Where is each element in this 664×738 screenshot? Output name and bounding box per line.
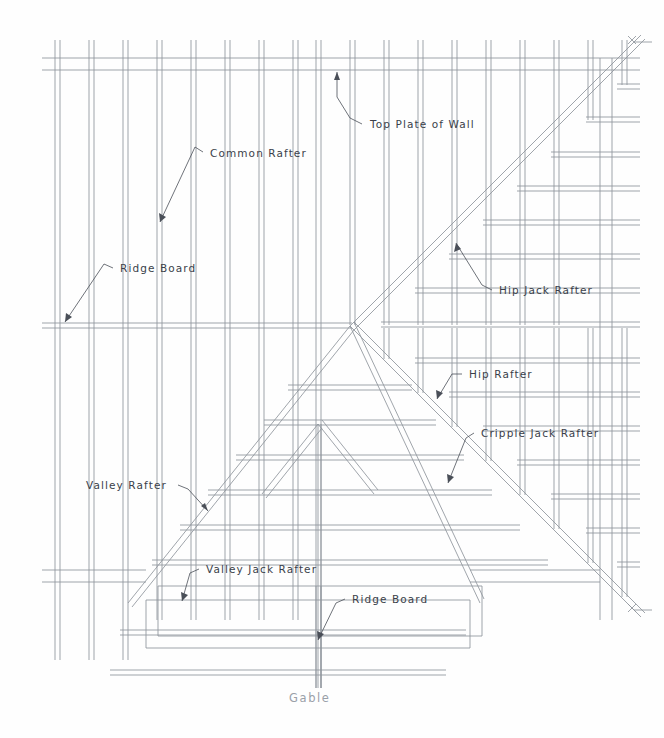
hip-jack-rafter (449, 392, 640, 397)
rafter-tail-ticks-upper (628, 36, 652, 44)
common-rafter (350, 40, 355, 325)
hip-jack-rafter (381, 322, 640, 327)
right-wall-top-plate (600, 58, 612, 620)
common-rafter (588, 40, 593, 120)
label-common-rafter: Common Rafter (210, 147, 307, 159)
common-rafter (157, 40, 162, 620)
label-cripple-jack-rafter: Cripple Jack Rafter (481, 427, 599, 439)
valley-jack-rafter (208, 490, 492, 495)
hip-jack-rafter (586, 117, 640, 122)
hip-rafter-upper-right (350, 35, 645, 330)
hip-rafter-lower-right (350, 322, 645, 617)
leader-top-plate-of-wall (337, 72, 362, 124)
hip-jack-rafter (449, 254, 640, 259)
common-rafter (486, 40, 491, 325)
label-hip-jack-rafter: Hip Jack Rafter (499, 284, 593, 296)
cripple-jack-rafter (486, 328, 491, 461)
common-rafter (554, 40, 559, 325)
common-rafter (520, 40, 525, 325)
common-rafter (225, 40, 230, 620)
leader-common-rafter (160, 147, 203, 222)
hip-jack-rafter (586, 528, 640, 533)
arrowhead-common-rafter (159, 213, 166, 222)
arrowhead-ridge-upper (65, 313, 72, 322)
gable-box-inner (146, 600, 470, 648)
leader-hip-jack-rafter (456, 243, 492, 290)
hip-jack-rafter (483, 220, 640, 225)
cripple-jack-rafter (418, 328, 423, 393)
framing-linework (42, 35, 652, 688)
arrowhead-top-plate (334, 72, 340, 80)
common-rafter (123, 40, 128, 660)
arrowhead-cripple-jack (447, 474, 454, 483)
common-rafter (622, 40, 627, 85)
common-rafter (259, 40, 264, 620)
label-hip-rafter: Hip Rafter (469, 368, 533, 380)
lower-top-plate-right (470, 570, 600, 582)
hip-jack-rafter (517, 186, 640, 191)
hip-jack-rafter (517, 460, 640, 465)
hip-jack-rafter-group (381, 84, 640, 567)
common-rafter (316, 40, 321, 688)
cripple-jack-rafter (452, 328, 457, 427)
common-rafter (55, 40, 60, 660)
common-rafter (293, 40, 298, 620)
label-valley-jack-rafter: Valley Jack Rafter (206, 563, 317, 575)
common-rafter-group (55, 40, 627, 688)
top-plate-of-wall (42, 58, 640, 70)
valley-jack-rafter (264, 420, 436, 425)
inner-hip-rafter-left (262, 424, 322, 498)
cripple-jack-rafter (622, 328, 627, 597)
valley-jack-rafter (236, 455, 464, 460)
leader-cripple-jack-rafter (448, 433, 474, 483)
inner-hip-rafter-right (318, 420, 378, 494)
common-rafter (418, 40, 423, 325)
roof-framing-drawing-canvas: Top Plate of Wall Common Rafter Ridge Bo… (0, 0, 664, 738)
valley-jack-rafter-group (152, 385, 548, 565)
valley-rafter-right (350, 322, 484, 603)
gable-box-outline (158, 586, 482, 636)
roof-framing-plan-svg: Top Plate of Wall Common Rafter Ridge Bo… (0, 0, 664, 738)
hip-jack-rafter (617, 562, 640, 567)
ridge-board-upper (42, 323, 352, 328)
arrowhead-ridge-lower (317, 631, 324, 640)
label-valley-rafter: Valley Rafter (86, 479, 167, 491)
arrowhead-hip-jack (454, 243, 461, 252)
common-rafter (452, 40, 457, 325)
gable-eave-upper (120, 630, 466, 635)
common-rafter (384, 40, 389, 325)
hip-jack-rafter (415, 358, 640, 363)
hip-jack-rafter (617, 84, 640, 89)
hip-jack-rafter (551, 152, 640, 157)
gable-eave-lower (110, 670, 446, 675)
label-ridge-board-upper: Ridge Board (120, 262, 196, 274)
valley-jack-rafter (180, 525, 520, 530)
common-rafter (89, 40, 94, 660)
caption-gable: Gable (289, 691, 331, 705)
label-top-plate-of-wall: Top Plate of Wall (369, 118, 475, 130)
label-ridge-board-lower: Ridge Board (352, 593, 428, 605)
cripple-jack-rafter (520, 328, 525, 495)
